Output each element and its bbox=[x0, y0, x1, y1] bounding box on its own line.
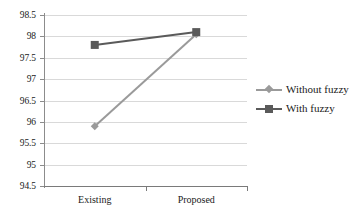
legend-item-with-fuzzy[interactable]: With fuzzy bbox=[256, 99, 360, 118]
line-chart: 98.59897.59796.59695.59594.5 ExistingPro… bbox=[0, 0, 362, 224]
legend-marker-square-icon bbox=[256, 103, 282, 115]
legend-label-without-fuzzy: Without fuzzy bbox=[282, 83, 349, 96]
legend-marker-diamond-icon bbox=[256, 84, 282, 96]
chart-legend: Without fuzzy With fuzzy bbox=[256, 80, 360, 118]
legend-label-with-fuzzy: With fuzzy bbox=[282, 102, 335, 115]
legend-item-without-fuzzy[interactable]: Without fuzzy bbox=[256, 80, 360, 99]
series-line bbox=[95, 34, 197, 126]
data-point-square bbox=[91, 41, 99, 49]
series-line bbox=[95, 32, 197, 45]
data-point-square bbox=[192, 28, 200, 36]
